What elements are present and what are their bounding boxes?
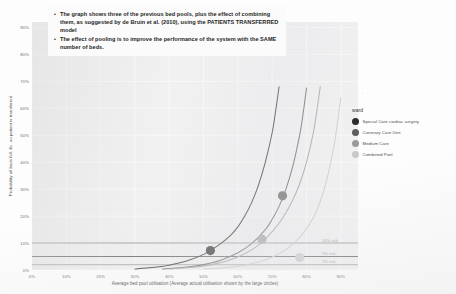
- legend-items: Special Care cardiac surgeryCoronary Car…: [352, 116, 419, 160]
- x-tick-label: 10%: [62, 274, 71, 279]
- x-tick-label: 90%: [336, 274, 345, 279]
- y-axis-title: Probability all beds full, &c. so patien…: [8, 96, 13, 196]
- reference-line-label: 2% risk: [322, 259, 335, 264]
- x-axis-title: Average bed pool utilisation (Average ac…: [112, 281, 279, 286]
- y-tick-label: 20%: [20, 214, 29, 219]
- legend-item-label: Medium Care: [363, 141, 389, 146]
- y-tick-label: 80%: [20, 52, 29, 57]
- y-tick-label: 50%: [20, 133, 29, 138]
- reference-lines: [32, 243, 358, 265]
- legend-item[interactable]: Special Care cardiac surgery: [352, 116, 419, 127]
- reference-line-label: 10% risk: [322, 238, 338, 243]
- y-tick-label: 90%: [20, 25, 29, 30]
- x-tick-label: 80%: [302, 274, 311, 279]
- x-tick-label: 30%: [131, 274, 140, 279]
- y-tick-label: 40%: [20, 160, 29, 165]
- list-item: The effect of pooling is to improve the …: [54, 35, 280, 51]
- chart-plot-area: 0%10%20%30%40%50%60%70%80%90% 0%10%20%30…: [32, 22, 358, 270]
- y-tick-label: 10%: [20, 241, 29, 246]
- y-tick-label: 70%: [20, 79, 29, 84]
- callout-textbox: The graph shows three of the previous be…: [48, 6, 286, 56]
- chart-legend: ward Special Care cardiac surgeryCoronar…: [352, 107, 419, 160]
- x-tick-label: 40%: [165, 274, 174, 279]
- legend-marker-circle-icon: [352, 151, 359, 158]
- slide-figure: 0%10%20%30%40%50%60%70%80%90% 0%10%20%30…: [0, 0, 456, 294]
- legend-marker-circle-icon: [352, 118, 359, 125]
- legend-item[interactable]: Combined Pool: [352, 149, 419, 160]
- x-tick-label: 20%: [96, 274, 105, 279]
- legend-title: ward: [352, 107, 419, 113]
- chart-svg: [32, 22, 358, 270]
- x-tick-label: 0%: [29, 274, 35, 279]
- legend-item-label: Special Care cardiac surgery: [363, 119, 420, 124]
- scan-speck: [362, 93, 363, 94]
- reference-line-label: 5% risk: [322, 251, 335, 256]
- legend-marker-circle-icon: [352, 129, 359, 136]
- list-item: The graph shows three of the previous be…: [54, 10, 280, 34]
- series-markers: [206, 191, 304, 262]
- callout-bullet-list: The graph shows three of the previous be…: [54, 10, 280, 51]
- y-tick-label: 0%: [23, 268, 29, 273]
- y-tick-label: 30%: [20, 187, 29, 192]
- y-tick-label: 60%: [20, 106, 29, 111]
- x-tick-label: 70%: [268, 274, 277, 279]
- grid-lines: [32, 22, 358, 270]
- legend-item[interactable]: Coronary Care Unit: [352, 127, 419, 138]
- legend-item[interactable]: Medium Care: [352, 138, 419, 149]
- legend-marker-circle-icon: [352, 140, 359, 147]
- legend-item-label: Coronary Care Unit: [363, 130, 401, 135]
- x-tick-label: 60%: [234, 274, 243, 279]
- x-tick-label: 50%: [199, 274, 208, 279]
- legend-item-label: Combined Pool: [363, 152, 393, 157]
